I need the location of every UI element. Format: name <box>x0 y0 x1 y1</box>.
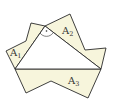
region-a3 <box>15 69 101 98</box>
right-angle-dot <box>46 30 48 32</box>
diagram-canvas: A1A2A3 <box>0 0 113 108</box>
